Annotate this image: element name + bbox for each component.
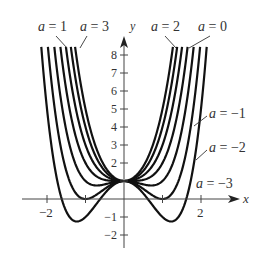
curve-annotation-label: a = −3	[196, 176, 233, 191]
annotation-pointer-line	[165, 36, 176, 48]
y-axis-label: y	[129, 19, 136, 33]
axes	[22, 36, 240, 248]
y-tick-label: 7	[111, 66, 117, 80]
y-tick-label: 5	[111, 102, 117, 116]
y-tick-label: −1	[104, 210, 117, 224]
y-tick-label: 8	[111, 48, 117, 62]
curve-annotation-label: a = 0	[198, 19, 227, 34]
x-axis-label: x	[242, 191, 249, 206]
curve-annotation-label: a = 2	[151, 19, 180, 34]
annotation-pointer-line	[80, 36, 87, 48]
x-tick-label: −2	[39, 205, 53, 220]
y-tick-label: 6	[111, 84, 117, 98]
annotation-pointer-line	[189, 36, 210, 48]
annotation-pointer-line	[56, 36, 67, 48]
curve-annotation-label: a = 3	[80, 19, 109, 34]
curve-annotation-label: a = −2	[209, 140, 246, 155]
annotation-pointer-line	[196, 150, 207, 160]
x-tick-label: 2	[197, 205, 204, 220]
y-tick-label: 3	[111, 138, 117, 152]
y-tick-label: −2	[104, 228, 117, 242]
function-family-chart: −22−2−12345678 x y a = 1a = 3a = 2a = 0a…	[0, 0, 255, 280]
curve-annotation-label: a = 1	[38, 19, 67, 34]
y-tick-label: 4	[111, 120, 117, 134]
y-tick-label: 2	[111, 156, 117, 170]
curve-annotation-label: a = −1	[209, 106, 246, 121]
